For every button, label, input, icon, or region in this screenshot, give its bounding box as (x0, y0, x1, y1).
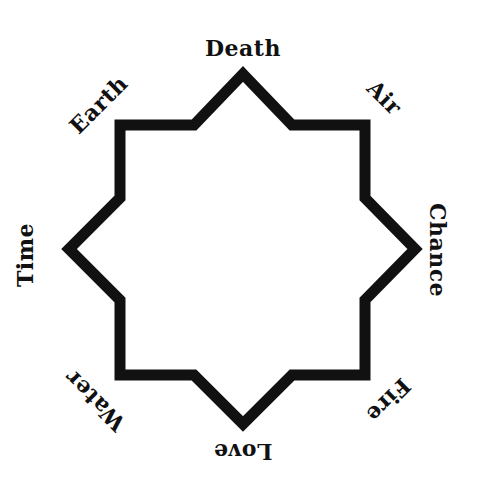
eight-pointed-star-diagram: Death Air Chance Fire Love Water Time Ea… (0, 0, 478, 491)
label-chance: Chance (425, 203, 451, 297)
label-love: Love (214, 439, 273, 465)
label-time: Time (12, 223, 38, 287)
label-air: Air (361, 74, 407, 120)
label-fire: Fire (361, 373, 416, 428)
label-death: Death (205, 35, 281, 61)
star-outline (69, 74, 415, 424)
